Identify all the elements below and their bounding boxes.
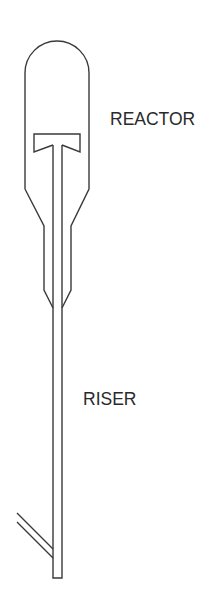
riser-label: RISER [83,391,136,409]
riser-pipe [53,145,62,578]
side-inlet-pipe [17,513,53,558]
reactor-riser-diagram [0,0,210,613]
reactor-label: REACTOR [110,111,195,129]
t-deflector [34,134,80,152]
reactor-vessel-outline [25,41,89,308]
